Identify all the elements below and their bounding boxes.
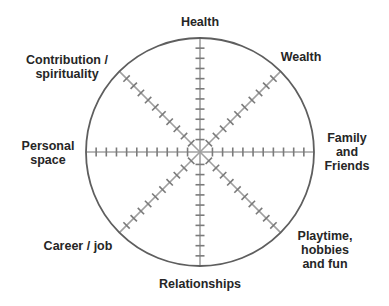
label-playtime-line-2: hobbies (290, 243, 360, 257)
spoke-career (119, 152, 200, 233)
label-personal-line-2: space (14, 153, 82, 167)
label-contribution-line-1: Contribution / (12, 53, 122, 67)
label-contribution-line-2: spirituality (12, 67, 122, 81)
spoke-health (196, 38, 205, 152)
label-career-job: Career / job (34, 239, 122, 253)
label-family-and-friends: Family and Friends (315, 131, 379, 173)
label-relationships-line-1: Relationships (150, 277, 250, 291)
spoke-wealth (200, 71, 281, 152)
wheel-of-life-diagram: Health Wealth Contribution / spiritualit… (0, 0, 389, 306)
label-personal-space: Personal space (14, 139, 82, 167)
label-family-line-3: Friends (315, 159, 379, 173)
label-health: Health (170, 15, 230, 29)
label-family-line-1: Family (315, 131, 379, 145)
label-family-line-2: and (315, 145, 379, 159)
label-health-line-1: Health (170, 15, 230, 29)
label-contribution-spirituality: Contribution / spirituality (12, 53, 122, 81)
label-playtime-line-3: and fun (290, 257, 360, 271)
spoke-contribution (119, 71, 200, 152)
spoke-family (200, 148, 314, 157)
label-playtime-line-1: Playtime, (290, 229, 360, 243)
spoke-relationships (196, 152, 205, 266)
label-wealth-line-1: Wealth (272, 50, 330, 64)
label-wealth: Wealth (272, 50, 330, 64)
spoke-personal (86, 148, 200, 157)
label-career-line-1: Career / job (34, 239, 122, 253)
label-personal-line-1: Personal (14, 139, 82, 153)
label-playtime-hobbies-fun: Playtime, hobbies and fun (290, 229, 360, 271)
spoke-playtime (200, 152, 281, 233)
label-relationships: Relationships (150, 277, 250, 291)
